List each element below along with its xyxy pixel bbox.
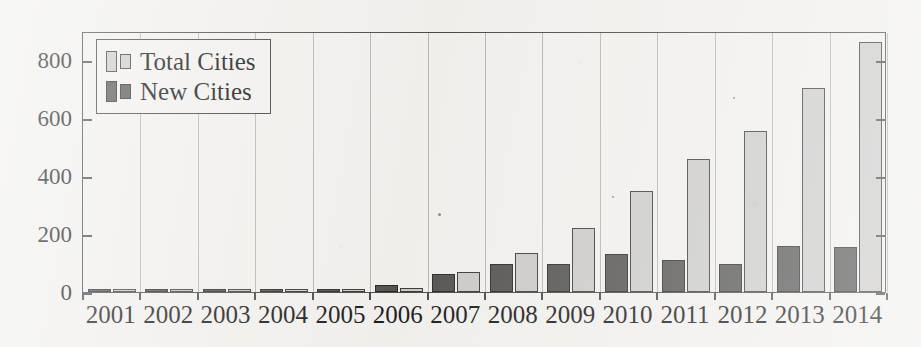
x-axis-tick-label: 2009 <box>545 301 595 329</box>
x-axis-tick <box>139 293 141 300</box>
bar-total-cities-2010 <box>630 191 653 293</box>
x-axis-tick-label: 2006 <box>373 301 423 329</box>
x-axis-tick <box>771 293 773 300</box>
bar-total-cities-2007 <box>457 272 480 292</box>
bar-total-cities-2005 <box>342 289 365 292</box>
x-axis-tick-label: 2010 <box>603 301 653 329</box>
bar-new-cities-2003 <box>203 289 226 292</box>
legend-swatch-total-cities-tall <box>106 51 117 72</box>
bar-new-cities-2008 <box>490 264 513 292</box>
bar-chart-figure: 0200400600800 20012002200320042005200620… <box>0 0 921 347</box>
scan-speck <box>612 196 614 198</box>
bar-new-cities-2004 <box>260 289 283 292</box>
legend-swatch-new-cities-short <box>120 84 131 99</box>
x-axis-ticks <box>82 293 886 301</box>
x-axis-tick <box>886 293 888 300</box>
legend-label-total-cities: Total Cities <box>140 49 256 74</box>
x-axis-tick <box>599 293 601 300</box>
x-axis-tick-label: 2001 <box>86 301 136 329</box>
legend-entry-new-cities: New Cities <box>106 76 256 106</box>
y-axis-tick-label: 200 <box>38 223 73 246</box>
x-axis-tick-label: 2008 <box>488 301 538 329</box>
x-axis-tick <box>427 293 429 300</box>
y-axis-tick-label: 0 <box>61 281 73 304</box>
x-axis-tick-label: 2007 <box>430 301 480 329</box>
y-axis-tick <box>876 119 885 121</box>
x-axis-tick-label: 2005 <box>315 301 365 329</box>
bar-total-cities-2003 <box>228 289 251 292</box>
bar-new-cities-2013 <box>777 246 800 292</box>
bar-new-cities-2010 <box>605 254 628 292</box>
x-axis-tick <box>82 293 84 300</box>
scan-speck <box>733 97 735 99</box>
bar-total-cities-2002 <box>170 289 193 292</box>
chart-legend: Total Cities New Cities <box>96 39 271 114</box>
bar-new-cities-2011 <box>662 260 685 292</box>
y-axis-tick <box>83 177 92 179</box>
x-axis-tick <box>714 293 716 300</box>
x-axis-tick-label: 2003 <box>201 301 251 329</box>
bar-new-cities-2005 <box>317 289 340 292</box>
bar-total-cities-2011 <box>687 159 710 292</box>
bar-total-cities-2012 <box>744 131 767 292</box>
bar-new-cities-2009 <box>547 264 570 292</box>
x-axis-tick <box>312 293 314 300</box>
bar-total-cities-2008 <box>515 253 538 292</box>
legend-entry-total-cities: Total Cities <box>106 46 256 76</box>
bar-new-cities-2007 <box>432 274 455 292</box>
y-axis-tick <box>876 61 885 63</box>
bar-total-cities-2001 <box>113 289 136 292</box>
bar-total-cities-2009 <box>572 228 595 292</box>
bar-new-cities-2012 <box>719 264 742 292</box>
y-axis-tick <box>876 177 885 179</box>
bar-new-cities-2001 <box>88 289 111 292</box>
gridline-vertical <box>887 33 888 292</box>
legend-swatch-new-cities-tall <box>106 81 117 102</box>
bar-new-cities-2006 <box>375 285 398 292</box>
y-axis-tick <box>83 119 92 121</box>
y-axis-tick-label: 400 <box>38 165 73 188</box>
bar-total-cities-2013 <box>802 88 825 292</box>
x-axis-labels: 2001200220032004200520062007200820092010… <box>82 301 886 341</box>
y-axis-tick-label: 600 <box>38 107 73 130</box>
x-axis-tick <box>254 293 256 300</box>
x-axis-tick-label: 2011 <box>660 301 709 329</box>
x-axis-tick <box>369 293 371 300</box>
x-axis-tick <box>829 293 831 300</box>
y-axis-tick <box>876 235 885 237</box>
scan-speck <box>438 213 441 216</box>
x-axis-tick-label: 2004 <box>258 301 308 329</box>
legend-swatch-total-cities-short <box>120 54 131 69</box>
legend-swatch-new-cities <box>106 81 131 102</box>
x-axis-tick <box>197 293 199 300</box>
bar-total-cities-2004 <box>285 289 308 292</box>
y-axis-tick <box>83 61 92 63</box>
x-axis-tick <box>541 293 543 300</box>
x-axis-tick-label: 2013 <box>775 301 825 329</box>
legend-swatch-total-cities <box>106 51 131 72</box>
y-axis-tick-label: 800 <box>38 49 73 72</box>
x-axis-tick <box>656 293 658 300</box>
bar-new-cities-2014 <box>834 247 857 292</box>
x-axis-tick-label: 2002 <box>143 301 193 329</box>
y-axis-labels: 0200400600800 <box>0 32 72 293</box>
legend-label-new-cities: New Cities <box>140 79 252 104</box>
x-axis-tick-label: 2012 <box>717 301 767 329</box>
bar-total-cities-2006 <box>400 288 423 292</box>
x-axis-tick-label: 2014 <box>832 301 882 329</box>
bar-new-cities-2002 <box>145 289 168 292</box>
y-axis-tick <box>83 235 92 237</box>
x-axis-tick <box>484 293 486 300</box>
bar-total-cities-2014 <box>859 42 882 292</box>
